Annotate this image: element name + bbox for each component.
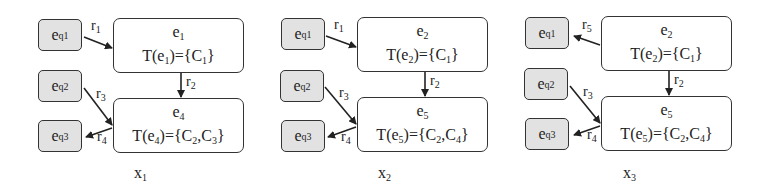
entity-type: T(e4)={C2,C3} bbox=[132, 126, 224, 150]
entity-label: e4 bbox=[172, 102, 184, 126]
entity-label: e2 bbox=[416, 21, 428, 45]
query-node-eq2: eq2 bbox=[38, 70, 82, 102]
entity-type: T(e5)={C2,C4} bbox=[620, 124, 712, 148]
relation-label-r4: r4 bbox=[587, 127, 597, 144]
edge-r1 bbox=[84, 37, 112, 48]
relation-label-r2: r2 bbox=[430, 73, 440, 90]
entity-label: e2 bbox=[660, 20, 672, 44]
query-node-eq1: eq1 bbox=[525, 17, 569, 49]
entity-node-e5: e5 T(e5)={C2,C4} bbox=[357, 97, 488, 152]
relation-label-r3: r3 bbox=[339, 85, 349, 102]
relation-label-r3: r3 bbox=[96, 86, 106, 103]
entity-label: e1 bbox=[172, 22, 184, 46]
entity-label: e5 bbox=[416, 101, 428, 125]
relation-label-r4: r4 bbox=[341, 129, 351, 146]
query-node-eq2: eq2 bbox=[524, 68, 568, 100]
relation-label-r2: r2 bbox=[186, 74, 196, 91]
query-node-eq2: eq2 bbox=[280, 70, 324, 102]
query-node-eq1: eq1 bbox=[38, 19, 82, 51]
edge-r1 bbox=[326, 36, 356, 47]
entity-node-e4: e4 T(e4)={C2,C3} bbox=[113, 98, 244, 153]
query-node-eq3: eq3 bbox=[281, 120, 325, 152]
entity-type: T(e1)={C1} bbox=[142, 46, 215, 70]
query-node-eq3: eq3 bbox=[38, 120, 82, 152]
entity-label: e5 bbox=[660, 100, 672, 124]
query-node-eq1: eq1 bbox=[281, 18, 325, 50]
panel-caption: x3 bbox=[623, 164, 636, 183]
panel-caption: x1 bbox=[134, 164, 147, 183]
relation-label-r1: r1 bbox=[91, 18, 101, 35]
relation-label-r4: r4 bbox=[97, 129, 107, 146]
entity-type: T(e2)={C1} bbox=[630, 44, 703, 68]
entity-node-e2: e2 T(e2)={C1} bbox=[601, 16, 732, 71]
relation-label-r2: r2 bbox=[674, 72, 684, 89]
entity-type: T(e2)={C1} bbox=[386, 45, 459, 69]
relation-label-r5: r5 bbox=[582, 17, 592, 34]
entity-node-e2: e2 T(e2)={C1} bbox=[357, 17, 488, 72]
panel-caption: x2 bbox=[378, 164, 391, 183]
entity-node-e1: e1 T(e1)={C1} bbox=[113, 18, 244, 73]
edge-r5 bbox=[574, 36, 600, 45]
entity-node-e5: e5 T(e5)={C2,C4} bbox=[601, 96, 732, 151]
relation-label-r3: r3 bbox=[583, 84, 593, 101]
query-node-eq3: eq3 bbox=[525, 118, 569, 150]
relation-label-r1: r1 bbox=[334, 17, 344, 34]
entity-type: T(e5)={C2,C4} bbox=[376, 125, 468, 149]
